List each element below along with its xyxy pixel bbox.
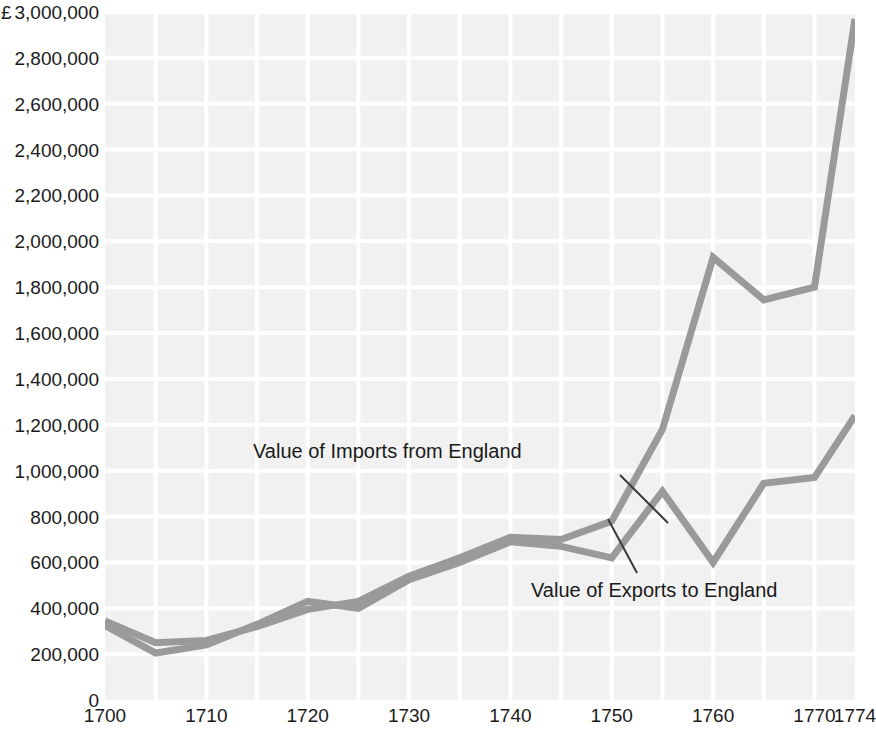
x-tick-label: 1774	[834, 706, 876, 727]
y-tick-label: 1,000,000	[14, 461, 99, 480]
y-tick-label: 1,800,000	[14, 278, 99, 297]
currency-symbol: £	[1, 2, 12, 23]
annotation-imports: Value of Imports from England	[253, 441, 522, 461]
y-tick-label: 2,400,000	[14, 140, 99, 159]
x-tick-label: 1760	[692, 706, 734, 727]
y-tick-label: 2,600,000	[14, 94, 99, 113]
y-tick-label: 1,200,000	[14, 415, 99, 434]
annotation-exports: Value of Exports to England	[531, 580, 777, 600]
y-tick-label: 200,000	[30, 645, 99, 664]
x-tick-label: 1750	[591, 706, 633, 727]
y-tick-label: 2,200,000	[14, 186, 99, 205]
x-tick-label: 1740	[489, 706, 531, 727]
series-line-imports	[105, 19, 855, 643]
y-tick-label: 400,000	[30, 599, 99, 618]
y-tick-label: 1,400,000	[14, 369, 99, 388]
y-axis: 0200,000400,000600,000800,0001,000,0001,…	[0, 0, 99, 712]
y-tick-label: 800,000	[30, 507, 99, 526]
x-tick-label: 1710	[185, 706, 227, 727]
y-tick-label: 2,800,000	[14, 48, 99, 67]
y-tick-label: 1,600,000	[14, 324, 99, 343]
x-tick-label: 1720	[287, 706, 329, 727]
x-tick-label: 1700	[84, 706, 126, 727]
y-tick-label: £3,000,000	[1, 3, 99, 22]
x-tick-label: 1730	[388, 706, 430, 727]
x-tick-label: 1770	[793, 706, 835, 727]
y-tick-label: 600,000	[30, 553, 99, 572]
y-tick-label: 2,000,000	[14, 232, 99, 251]
y-tick-value: 3,000,000	[14, 2, 99, 23]
x-axis: 170017101720173017401750176017701774	[0, 706, 870, 740]
